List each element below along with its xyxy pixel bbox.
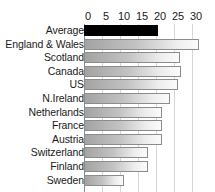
- plot-area: AverageEngland & WalesScotlandCanadaUSN.…: [0, 24, 215, 192]
- bar-row: US: [0, 78, 215, 92]
- bar-category-label: France: [0, 119, 84, 132]
- bar: [84, 120, 162, 131]
- bar-category-label: Sweden: [0, 174, 84, 187]
- bar: [84, 66, 181, 77]
- bar: [84, 175, 124, 186]
- bar: [84, 161, 148, 172]
- bar-track: [84, 120, 215, 131]
- x-tick-label: 20: [154, 9, 166, 23]
- x-tick-label: 0: [85, 9, 91, 23]
- bar-track: [84, 52, 215, 63]
- bar: [84, 93, 170, 104]
- bar: [84, 134, 162, 145]
- bar-row: England & Wales: [0, 38, 215, 52]
- bar-category-label: Scotland: [0, 51, 84, 64]
- x-tick-label: 15: [136, 9, 148, 23]
- bar-category-label: N.Ireland: [0, 92, 84, 105]
- bar-row: N.Ireland: [0, 92, 215, 106]
- bar-track: [84, 25, 215, 36]
- bar: [84, 79, 178, 90]
- bar: [84, 39, 199, 50]
- bar-track: [84, 175, 215, 186]
- bar-category-label: England & Wales: [0, 38, 84, 51]
- bar-category-label: Finland: [0, 160, 84, 173]
- bar-category-label: Austria: [0, 133, 84, 146]
- bar-track: [84, 107, 215, 118]
- bar-category-label: Average: [0, 24, 84, 37]
- bar: [84, 147, 148, 158]
- bar-row: Scotland: [0, 51, 215, 65]
- bar-row: Netherlands: [0, 106, 215, 120]
- bar-track: [84, 79, 215, 90]
- x-tick-label: 25: [172, 9, 184, 23]
- bar: [84, 107, 162, 118]
- bar-category-label: Switzerland: [0, 146, 84, 159]
- bar-track: [84, 147, 215, 158]
- bar-row: Austria: [0, 133, 215, 147]
- bar-track: [84, 93, 215, 104]
- x-tick-label: 10: [118, 9, 130, 23]
- bar-track: [84, 134, 215, 145]
- x-tick-label: 30: [190, 9, 202, 23]
- bar-track: [84, 39, 215, 50]
- bar-row: Sweden: [0, 174, 215, 188]
- bar-chart: 051015202530 AverageEngland & WalesScotl…: [0, 0, 215, 192]
- x-tick-label: 5: [103, 9, 109, 23]
- bar-category-label: Netherlands: [0, 106, 84, 119]
- bar-track: [84, 66, 215, 77]
- bar-track: [84, 161, 215, 172]
- bar-row: Average: [0, 24, 215, 38]
- bar-category-label: US: [0, 78, 84, 91]
- bar: [84, 52, 180, 63]
- bar-row: Finland: [0, 160, 215, 174]
- bar-row: Canada: [0, 65, 215, 79]
- bar-row: Switzerland: [0, 146, 215, 160]
- bar: [84, 25, 158, 36]
- x-axis-tick-labels: 051015202530: [0, 9, 215, 23]
- bar-row: France: [0, 119, 215, 133]
- bar-category-label: Canada: [0, 65, 84, 78]
